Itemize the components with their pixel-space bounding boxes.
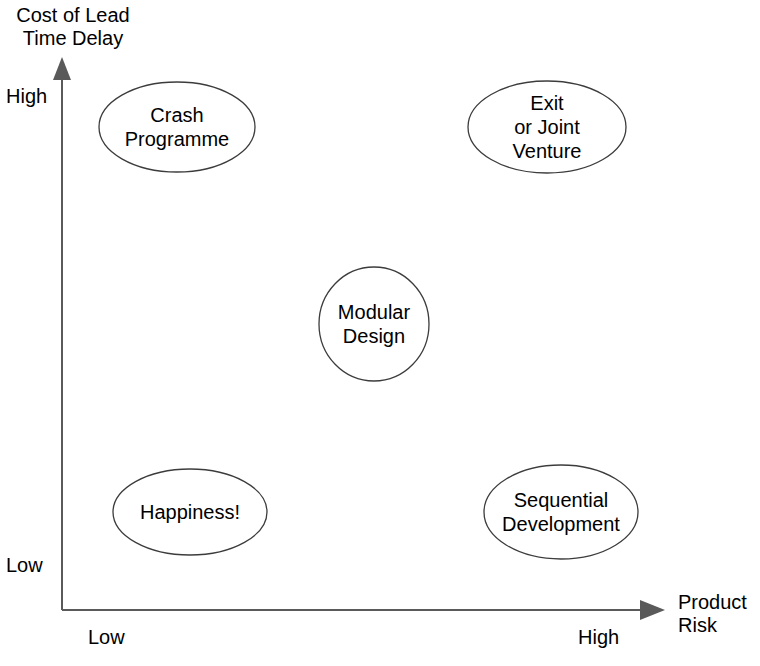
y-axis-high-label: High [6,85,47,108]
diagram-canvas: Cost of Lead Time Delay High Low Low Hig… [0,0,760,666]
node-label-exit-or-joint-venture: Exit or Joint Venture [468,81,626,173]
node-label-sequential-development: Sequential Development [484,465,638,559]
x-axis-high-label: High [578,626,619,649]
y-axis-low-label: Low [6,554,43,577]
x-axis-arrowhead [640,600,665,620]
node-label-modular-design: Modular Design [319,267,429,381]
y-axis-arrowhead [53,57,71,80]
x-axis-title: Product Risk [678,591,758,637]
node-label-crash-programme: Crash Programme [99,82,255,172]
y-axis-title: Cost of Lead Time Delay [8,4,138,50]
x-axis-low-label: Low [88,626,125,649]
node-label-happiness: Happiness! [113,469,267,555]
